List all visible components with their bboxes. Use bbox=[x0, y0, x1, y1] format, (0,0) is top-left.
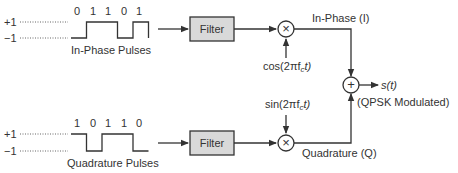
quadrature-pulse-waveform bbox=[71, 134, 149, 151]
quadrature-bit: 1 bbox=[121, 117, 127, 129]
quadrature-branch-label: Quadrature (Q) bbox=[302, 147, 377, 159]
output-signal-label: s(t) bbox=[381, 79, 397, 91]
in-phase-bit: 0 bbox=[121, 5, 127, 17]
cos-carrier-label: cos(2πfct) bbox=[263, 60, 312, 74]
in-phase-branch: +1 −1 0 1 1 0 1 In-Phase Pulses Filter ×… bbox=[4, 5, 369, 76]
sin-carrier-label: sin(2πfct) bbox=[265, 98, 311, 112]
in-phase-level-low-label: −1 bbox=[4, 32, 17, 44]
summer-block: + s(t) (QPSK Modulated) bbox=[343, 77, 449, 108]
in-phase-bit: 1 bbox=[105, 5, 111, 17]
in-phase-bits: 0 1 1 0 1 bbox=[74, 5, 142, 17]
quadrature-bit: 0 bbox=[90, 117, 96, 129]
quadrature-pulses-label: Quadrature Pulses bbox=[67, 157, 159, 169]
quadrature-level-low-label: −1 bbox=[4, 145, 17, 157]
output-note-label: (QPSK Modulated) bbox=[357, 96, 449, 108]
plus-icon: + bbox=[347, 77, 355, 92]
in-phase-bit: 1 bbox=[90, 5, 96, 17]
in-phase-level-high-label: +1 bbox=[4, 16, 17, 28]
in-phase-bit: 0 bbox=[74, 5, 80, 17]
in-phase-branch-label: In-Phase (I) bbox=[312, 12, 369, 24]
quadrature-bit: 1 bbox=[105, 117, 111, 129]
multiply-icon: × bbox=[282, 21, 290, 36]
quadrature-bit: 1 bbox=[74, 117, 80, 129]
in-phase-filter-label: Filter bbox=[200, 23, 225, 35]
multiply-icon: × bbox=[282, 135, 290, 150]
quadrature-branch: +1 −1 1 0 1 1 0 Quadrature Pulses Filter… bbox=[4, 94, 377, 169]
in-phase-pulses-label: In-Phase Pulses bbox=[71, 44, 152, 56]
in-phase-pulse-waveform bbox=[71, 22, 149, 38]
quadrature-level-high-label: +1 bbox=[4, 128, 17, 140]
quadrature-bit: 0 bbox=[136, 117, 142, 129]
in-phase-bit: 1 bbox=[136, 5, 142, 17]
quadrature-bits: 1 0 1 1 0 bbox=[74, 117, 142, 129]
qpsk-modulator-diagram: +1 −1 0 1 1 0 1 In-Phase Pulses Filter ×… bbox=[0, 0, 458, 173]
quadrature-filter-label: Filter bbox=[200, 137, 225, 149]
